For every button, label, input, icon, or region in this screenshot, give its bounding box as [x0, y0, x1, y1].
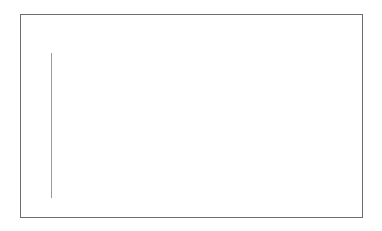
y-axis [51, 53, 52, 198]
chart-frame [20, 14, 363, 218]
